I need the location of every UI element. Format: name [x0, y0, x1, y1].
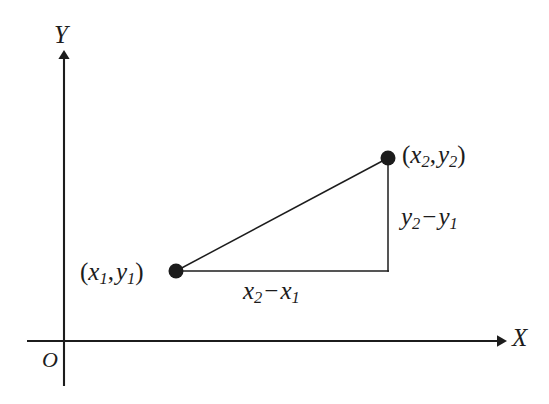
point-label-1-var-y: y	[116, 258, 127, 285]
delta-x-label: x2−x1	[243, 278, 300, 306]
point-label-1-var-x: x	[88, 258, 99, 285]
point-label-2-close-paren: )	[457, 141, 465, 168]
point-marker-1	[169, 264, 184, 279]
point-label-2: (x2,y2)	[402, 142, 466, 170]
point-label-2-sub-x: 2	[421, 152, 429, 171]
hypotenuse-line	[176, 158, 388, 271]
distance-formula-figure: Y X O (x1,y1) (x2,y2) x2−x1 y2−y1	[0, 0, 549, 404]
delta-x-var-2: x	[280, 277, 291, 304]
y-axis	[58, 50, 69, 386]
y-axis-arrowhead-icon	[58, 50, 69, 59]
delta-y-var-1: y	[401, 203, 412, 230]
delta-y-label: y2−y1	[401, 204, 458, 232]
point-label-1-sub-x: 1	[99, 269, 107, 288]
point-marker-2	[381, 151, 396, 166]
point-label-1-comma: ,	[108, 258, 116, 285]
right-triangle	[176, 158, 389, 272]
delta-y-minus-sign: −	[420, 203, 438, 230]
point-label-2-comma: ,	[430, 141, 438, 168]
delta-x-sub-2: 1	[292, 288, 300, 307]
x-axis	[27, 335, 507, 347]
point-label-2-var-y: y	[438, 141, 449, 168]
figure-canvas	[0, 0, 549, 404]
delta-x-minus-sign: −	[262, 277, 280, 304]
x-axis-arrowhead-icon	[497, 335, 507, 347]
origin-label: O	[42, 349, 58, 371]
delta-y-var-2: y	[438, 203, 449, 230]
delta-x-var-1: x	[243, 277, 254, 304]
point-label-2-var-x: x	[410, 141, 421, 168]
point-label-1: (x1,y1)	[80, 259, 144, 287]
delta-y-sub-2: 1	[450, 214, 458, 233]
y-axis-label: Y	[54, 22, 68, 47]
x-axis-label: X	[512, 325, 527, 350]
point-label-1-close-paren: )	[135, 258, 143, 285]
